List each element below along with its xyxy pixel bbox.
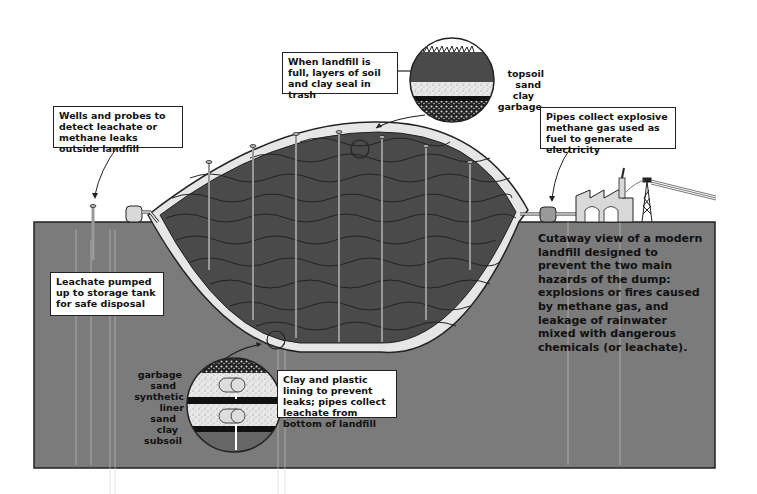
layer-label-sand: sand bbox=[108, 380, 176, 391]
layer-label-clay: clay bbox=[108, 424, 178, 435]
callout-top-cap: When landfill is full, layers of soil an… bbox=[282, 52, 398, 94]
layer-label-sand: sand bbox=[478, 79, 541, 90]
layer-label-synthetic-liner: synthetic liner bbox=[108, 391, 184, 413]
layer-label-topsoil: topsoil bbox=[492, 68, 544, 79]
layer-label-sand: sand bbox=[108, 413, 176, 424]
top-cap-layer-labels: topsoil sand clay garbage bbox=[478, 68, 544, 112]
transmission-tower bbox=[642, 178, 652, 222]
layer-label-garbage: garbage bbox=[108, 369, 182, 380]
callout-leachate-pump: Leachate pumped up to storage tank for s… bbox=[50, 272, 164, 316]
layer-label-garbage: garbage bbox=[478, 101, 542, 112]
leachate-storage-tank bbox=[126, 206, 142, 222]
diagram-caption: Cutaway view of a modern landfill design… bbox=[538, 232, 706, 354]
callout-bottom-lining: Clay and plastic lining to prevent leaks… bbox=[277, 370, 397, 418]
layer-label-clay: clay bbox=[478, 90, 534, 101]
callout-pipes-methane: Pipes collect explosive methane gas used… bbox=[540, 107, 676, 149]
bottom-liner-layer-labels: garbage sand synthetic liner sand clay s… bbox=[108, 369, 184, 446]
methane-collection-tank bbox=[540, 207, 556, 222]
callout-wells: Wells and probes to detect leachate or m… bbox=[53, 106, 183, 148]
layer-label-subsoil: subsoil bbox=[108, 435, 182, 446]
